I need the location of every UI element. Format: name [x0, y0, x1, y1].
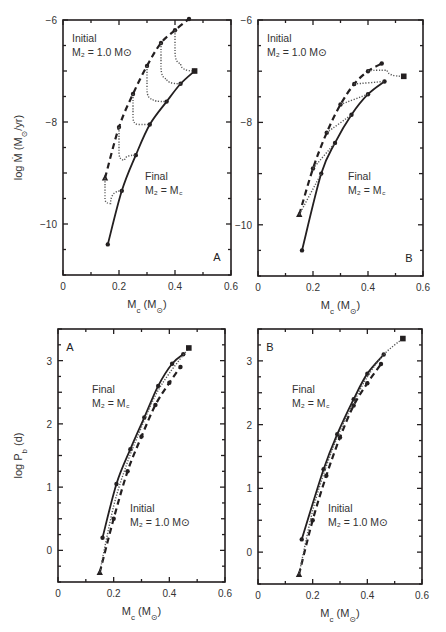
x-tick-label: 0.4	[162, 588, 176, 599]
panel-letter: A	[213, 251, 221, 263]
data-point	[148, 122, 152, 126]
annotation-line1: Initial	[267, 32, 292, 44]
data-point-square	[400, 336, 406, 342]
series-dotted-line	[119, 127, 136, 160]
y-tick-label: −6	[46, 15, 58, 26]
y-tick-label: 3	[46, 356, 52, 367]
panel-letter: B	[266, 341, 273, 353]
data-point	[300, 248, 304, 252]
annotation-line2: M₂ = M꜀	[292, 397, 330, 409]
panel-letter: B	[405, 252, 412, 264]
plot-frame	[58, 329, 225, 582]
series-dotted-line	[299, 339, 403, 575]
x-axis-title: Mc (M⊙)	[321, 299, 360, 316]
data-point	[338, 435, 342, 439]
data-point	[187, 17, 191, 21]
series-dotted-line	[175, 30, 195, 71]
series-solid-line	[108, 71, 195, 244]
y-tick-label: −8	[241, 117, 253, 128]
annotation-line2: M₂ = 1.0 M⊙	[267, 46, 327, 58]
y-axis-title: log Ṁ (M⊙/yr)	[12, 115, 29, 180]
x-tick-label: 0.2	[306, 282, 320, 293]
y-axis-title: log Pb (d)	[12, 432, 29, 478]
series-dashed-line	[105, 19, 189, 178]
x-tick-label: 0	[55, 588, 61, 599]
annotation-line2: M₂ = M꜀	[348, 184, 386, 196]
x-tick-label: 0.6	[218, 588, 232, 599]
data-point	[380, 61, 384, 65]
x-tick-label: 0.4	[360, 590, 374, 601]
annotation-line1: Initial	[72, 32, 97, 44]
annotation-line1: Final	[92, 383, 115, 395]
data-point	[139, 434, 143, 438]
x-tick-label: 0.2	[306, 590, 320, 601]
y-tick-label: −8	[46, 117, 58, 128]
annotation-line2: M₂ = 1.0 M⊙	[328, 516, 388, 528]
data-point	[300, 537, 304, 541]
data-point-triangle	[102, 175, 108, 181]
data-point	[366, 92, 370, 96]
y-tick-label: 0	[46, 545, 52, 556]
x-tick-label: 0.6	[416, 282, 430, 293]
data-point	[365, 381, 369, 385]
annotation-line1: Final	[292, 383, 315, 395]
x-axis-title: Mc (M⊙)	[122, 605, 161, 622]
panel-letter: A	[66, 341, 74, 353]
chart-panel-top-right: 00.20.40.6−10−8−6Mc (M⊙)BInitialM₂ = 1.0…	[235, 15, 430, 316]
chart-panel-bottom-left: 00.20.40.60123Mc (M⊙)log Pb (d)AFinalM₂ …	[12, 329, 232, 622]
series-dotted-line	[133, 94, 150, 125]
y-tick-label: 2	[246, 420, 252, 431]
y-tick-label: 2	[46, 419, 52, 430]
data-point	[351, 403, 355, 407]
x-tick-label: 0.4	[361, 282, 375, 293]
y-tick-label: 1	[246, 483, 252, 494]
data-point-square	[401, 74, 407, 80]
data-point	[100, 536, 104, 540]
series-dotted-line	[147, 66, 167, 102]
annotation-line2: M₂ = 1.0 M⊙	[72, 46, 132, 58]
data-point	[164, 99, 168, 103]
x-axis-title: Mc (M⊙)	[320, 607, 359, 624]
x-tick-label: 0.6	[415, 590, 429, 601]
data-point	[319, 171, 323, 175]
chart-panel-bottom-right: 00.20.40.60123Mc (M⊙)BFinalM₂ = M꜀Initia…	[246, 329, 429, 624]
y-tick-label: −10	[235, 220, 252, 231]
x-tick-label: 0.6	[224, 281, 238, 292]
figure: 00.20.40.6−10−8−6Mc (M⊙)log Ṁ (M⊙/yr)AIn…	[0, 0, 446, 632]
data-point	[324, 473, 328, 477]
y-tick-label: 0	[246, 547, 252, 558]
data-point	[338, 102, 342, 106]
data-point	[379, 362, 383, 366]
x-axis-title: Mc (M⊙)	[127, 298, 166, 315]
annotation-line2: M₂ = M꜀	[92, 397, 130, 409]
data-point	[125, 469, 129, 473]
x-tick-label: 0	[255, 590, 261, 601]
x-tick-label: 0	[255, 282, 261, 293]
data-point-square	[192, 68, 198, 74]
data-point-square	[186, 345, 192, 351]
annotation-line1: Final	[145, 170, 168, 182]
y-tick-label: −6	[241, 15, 253, 26]
data-point	[111, 517, 115, 521]
data-point	[156, 384, 160, 388]
plot-frame	[63, 20, 231, 275]
data-point	[114, 482, 118, 486]
y-tick-label: −10	[40, 219, 57, 230]
data-point	[153, 403, 157, 407]
plot-frame	[258, 20, 423, 276]
x-tick-label: 0.2	[112, 281, 126, 292]
annotation-line1: Initial	[130, 502, 155, 514]
series-dotted-line	[161, 43, 181, 84]
plot-frame	[258, 329, 422, 584]
annotation-line1: Initial	[328, 502, 353, 514]
series-dotted-line	[299, 174, 321, 215]
x-tick-label: 0.4	[168, 281, 182, 292]
x-tick-label: 0	[60, 281, 66, 292]
y-tick-label: 3	[246, 356, 252, 367]
series-dotted-line	[100, 348, 189, 573]
series-dashed-line	[299, 364, 381, 574]
data-point	[106, 242, 110, 246]
series-dotted-line	[368, 70, 404, 76]
annotation-line2: M₂ = M꜀	[145, 184, 183, 196]
x-tick-label: 0.2	[107, 588, 121, 599]
